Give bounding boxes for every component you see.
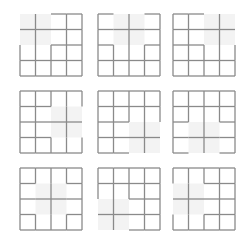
grid-panel-1 [20,14,82,76]
grid-panel-4 [20,91,82,153]
grid-panel-3 [173,14,235,76]
grid-panel-2 [98,14,160,76]
grid-panel-6 [173,91,235,153]
grid-panel-5 [98,91,160,153]
grid-panel-9 [173,168,235,230]
grid-panel-8 [98,168,160,230]
grid-panel-7 [20,168,82,230]
